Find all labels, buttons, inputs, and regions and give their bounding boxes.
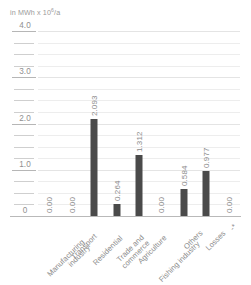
bar-value-label: 0.00 [224,197,233,213]
bar-value-label: 0.00 [45,197,54,213]
bar-category: 0.00 [150,31,172,216]
x-axis-label: -* [228,223,238,233]
bar-category: 0.00 [38,31,60,216]
x-axis-label-slot: Trade andcommerce [105,219,127,285]
x-axis-label-slot: Residential [83,219,105,285]
bar-category: 0.00 [218,31,240,216]
y-tick-minor [14,181,34,182]
bar-category: 0.977 [195,31,217,216]
x-axis-label-slot: Transport [60,219,82,285]
y-tick-minor [14,89,34,90]
x-axis-label-slot: Agriculture [128,219,150,285]
axis-unit-suffix: /a [54,8,60,17]
y-axis-label: 1.0 [12,160,38,169]
y-axis-label: 2.0 [12,114,38,123]
x-axis-label-slot: -* [218,219,240,285]
y-tick-minor [14,193,34,194]
bar-value-label: 2.093 [90,96,99,117]
bar-value-label: 0.977 [202,147,211,168]
bar [113,204,120,216]
y-tick-major [12,124,36,125]
y-tick-minor [14,147,34,148]
y-tick-minor [14,135,34,136]
y-axis-label: 0 [12,206,38,215]
x-axis-label-slot: Manufacturingindustry [38,219,60,285]
y-tick-major [12,77,36,78]
bar [203,171,210,216]
x-axis-label-slot: Others [173,219,195,285]
x-axis-label-slot: Losses [195,219,217,285]
bar-value-label: 0.264 [112,180,121,201]
bar-value-label: 0.00 [67,197,76,213]
bar-category: 0.00 [60,31,82,216]
y-axis-label: 4.0 [12,21,38,30]
y-tick-major [12,31,36,32]
y-tick-minor [14,54,34,55]
bar-value-label: 0.00 [157,197,166,213]
x-axis-category-labels: ManufacturingindustryTransportResidentia… [38,219,240,285]
bar [135,155,142,216]
bar-category: 1.312 [128,31,150,216]
y-axis-label: 3.0 [12,67,38,76]
y-tick-minor [14,43,34,44]
bar-chart: in MWh x 106/a 4.03.02.01.00 0.000.002.0… [0,0,251,285]
bar-value-label: 0.584 [179,165,188,186]
bar [91,119,98,216]
bar-category: 2.093 [83,31,105,216]
plot-area: 0.000.002.0930.2641.3120.000.5840.9770.0… [38,31,240,216]
bar-series: 0.000.002.0930.2641.3120.000.5840.9770.0… [38,31,240,216]
y-axis: 4.03.02.01.00 [0,0,38,285]
bar-category: 0.264 [105,31,127,216]
bar [180,189,187,216]
bar-category: 0.584 [173,31,195,216]
x-axis-label-slot: Fishing industry [150,219,172,285]
y-tick-minor [14,100,34,101]
y-tick-major [12,170,36,171]
x-axis-baseline [10,216,241,217]
bar-value-label: 1.312 [134,132,143,153]
